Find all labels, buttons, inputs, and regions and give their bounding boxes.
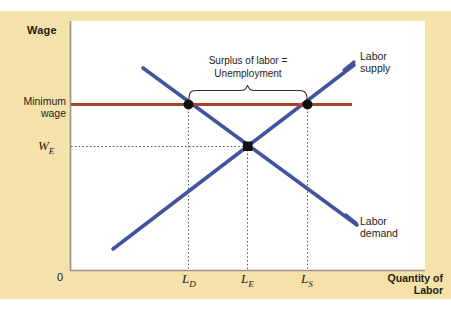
equilibrium-wage-symbol: W	[38, 138, 49, 153]
point-markers	[184, 100, 313, 152]
y-tick-equilibrium-wage: WE	[38, 138, 54, 156]
labor-supply-label: Laborsupply	[360, 50, 390, 75]
ls-subscript: S	[308, 279, 313, 289]
labor-demand-line1: Labor	[360, 215, 387, 227]
minimum-wage-line1: Minimum	[23, 95, 66, 107]
marker-labor-demanded	[184, 100, 194, 110]
marker-labor-supplied	[303, 100, 313, 110]
x-tick-labor-equilibrium: LE	[241, 271, 254, 289]
ld-subscript: D	[189, 279, 196, 289]
marker-equilibrium	[243, 142, 253, 152]
labor-demand-line2: demand	[360, 227, 398, 239]
x-tick-labor-supplied: LS	[301, 271, 313, 289]
labor-supply-curve	[113, 65, 354, 249]
le-subscript: E	[248, 279, 254, 289]
surplus-annotation: Surplus of labor =Unemployment	[178, 54, 318, 80]
surplus-brace	[189, 86, 307, 100]
x-axis-title-line1: Quantity of	[388, 272, 443, 284]
figure-container: Wage Minimumwage WE 0 LD LE LS Quantity …	[0, 0, 451, 309]
x-axis-title: Quantity ofLabor	[340, 272, 443, 297]
equilibrium-wage-subscript: E	[49, 146, 55, 156]
curves	[71, 65, 357, 249]
labor-demand-label: Labordemand	[360, 215, 398, 240]
y-axis-title: Wage	[27, 24, 57, 37]
surplus-annotation-line1: Surplus of labor =	[209, 55, 288, 66]
origin-label: 0	[57, 271, 63, 284]
chart-graphics-layer	[0, 0, 451, 309]
surplus-annotation-line2: Unemployment	[214, 68, 281, 79]
x-axis-title-line2: Labor	[414, 284, 443, 296]
labor-supply-line2: supply	[360, 62, 390, 74]
labor-supply-line1: Labor	[360, 50, 387, 62]
curve-label-leaders	[344, 62, 356, 223]
y-tick-minimum-wage: Minimumwage	[4, 95, 66, 120]
x-tick-labor-demanded: LD	[182, 271, 196, 289]
minimum-wage-line2: wage	[41, 107, 66, 119]
